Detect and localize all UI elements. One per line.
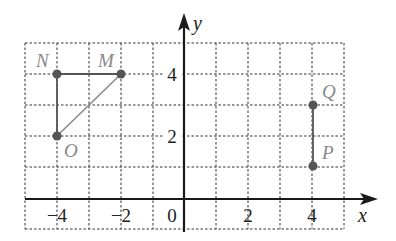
point-n xyxy=(53,70,62,79)
y-tick-label: 4 xyxy=(167,64,177,85)
y-tick-label: 2 xyxy=(167,126,177,147)
x-tick-label: 4 xyxy=(307,205,317,226)
point-label-n: N xyxy=(35,50,50,71)
y-axis-label: y xyxy=(191,12,202,35)
point-m xyxy=(117,70,126,79)
point-p xyxy=(309,162,318,171)
point-label-m: M xyxy=(97,50,115,71)
point-label-p: P xyxy=(321,142,334,163)
point-o xyxy=(53,132,62,141)
origin-label: 0 xyxy=(167,205,177,226)
axes xyxy=(25,13,378,232)
coordinate-plane: y x −4 −2 0 2 4 4 2 N M O Q P xyxy=(0,0,396,241)
point-label-q: Q xyxy=(322,81,336,102)
x-axis-label: x xyxy=(357,204,367,226)
x-tick-label: −4 xyxy=(47,205,68,226)
x-tick-label: −2 xyxy=(111,205,131,226)
point-label-o: O xyxy=(64,140,78,161)
x-tick-label: 2 xyxy=(243,205,253,226)
point-q xyxy=(309,101,318,110)
